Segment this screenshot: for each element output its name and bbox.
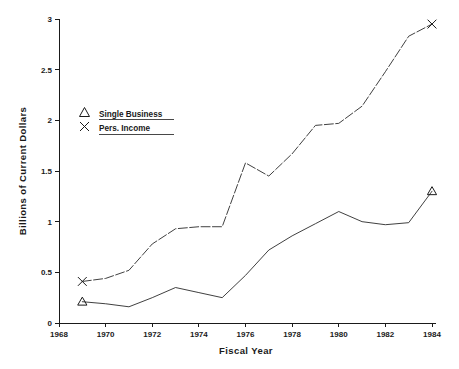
chart-container: 00.511.522.53 19681970197219741976197819… — [0, 0, 459, 369]
x-tick-label: 1976 — [237, 330, 255, 339]
x-tick-label: 1982 — [376, 330, 394, 339]
y-tick-label: 2 — [48, 116, 53, 125]
x-marker-icon — [80, 122, 89, 131]
x-tick-label: 1984 — [423, 330, 441, 339]
x-tick-label: 1978 — [283, 330, 301, 339]
x-tick-label: 1974 — [190, 330, 208, 339]
series-layer — [78, 20, 437, 307]
series-0 — [78, 187, 437, 307]
y-tick-label: 3 — [48, 15, 53, 24]
series-1 — [78, 20, 436, 286]
line-chart: 00.511.522.53 19681970197219741976197819… — [0, 0, 459, 369]
y-tick-label: 0.5 — [41, 268, 53, 277]
x-tick-label: 1980 — [330, 330, 348, 339]
triangle-marker-icon — [80, 108, 90, 117]
series-line-0 — [82, 191, 432, 307]
y-tick-label: 0 — [48, 319, 53, 328]
y-tick-label: 2.5 — [41, 66, 53, 75]
y-tick-label: 1 — [48, 218, 53, 227]
triangle-marker-icon — [78, 297, 87, 305]
x-tick-label: 1968 — [50, 330, 68, 339]
triangle-marker-icon — [427, 187, 436, 195]
y-axis-title: Billions of Current Dollars — [17, 107, 28, 236]
legend-item-pers-income: Pers. Income — [80, 122, 174, 134]
legend-item-single-business: Single Business — [80, 108, 175, 120]
series-line-1 — [82, 24, 432, 281]
chart-legend: Single Business Pers. Income — [80, 108, 175, 135]
y-axis-ticks: 00.511.522.53 — [41, 15, 59, 328]
x-axis-ticks: 196819701972197419761978198019821984 — [50, 323, 441, 339]
x-tick-label: 1972 — [143, 330, 161, 339]
legend-label-pers-income: Pers. Income — [99, 124, 150, 133]
x-axis-title: Fiscal Year — [219, 345, 273, 356]
legend-label-single-business: Single Business — [99, 110, 163, 119]
y-tick-label: 1.5 — [41, 167, 53, 176]
x-tick-label: 1970 — [97, 330, 115, 339]
